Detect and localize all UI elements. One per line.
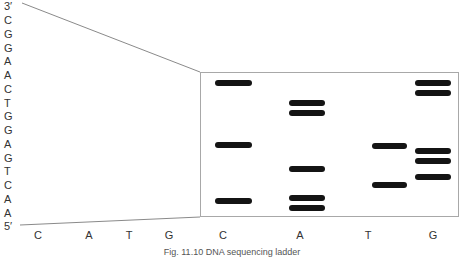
gel-band-c (215, 142, 252, 148)
gel-band-g (415, 174, 451, 180)
bottom-connector-line (20, 217, 200, 225)
lane-label-left: A (79, 229, 99, 241)
sequence-base: G (4, 28, 16, 40)
sequence-base: C (4, 179, 16, 191)
gel-band-g (415, 158, 451, 164)
gel-band-a (289, 110, 325, 116)
sequence-base: C (4, 14, 16, 26)
gel-lane-label-c: C (213, 229, 233, 241)
lane-label-left: T (119, 229, 139, 241)
gel-band-c (215, 80, 252, 86)
gel-band-g (415, 148, 451, 154)
sequence-base: A (4, 138, 16, 150)
five-prime-label: 5′ (4, 220, 16, 232)
gel-band-a (289, 205, 325, 211)
gel-band-t (372, 182, 407, 188)
gel-lane-label-t: T (358, 229, 378, 241)
sequence-base: G (4, 110, 16, 122)
sequence-base: A (4, 207, 16, 219)
gel-lane-label-a: A (290, 229, 310, 241)
sequence-base: A (4, 55, 16, 67)
sequence-base: C (4, 83, 16, 95)
sequence-base: A (4, 193, 16, 205)
gel-band-a (289, 195, 325, 201)
gel-band-c (215, 198, 252, 204)
sequence-base: G (4, 152, 16, 164)
figure-caption: Fig. 11.10 DNA sequencing ladder (0, 246, 464, 258)
sequence-base: T (4, 97, 16, 109)
gel-band-g (415, 90, 451, 96)
sequence-base: T (4, 165, 16, 177)
sequence-base: A (4, 69, 16, 81)
lane-label-left: C (28, 229, 48, 241)
lane-label-left: G (159, 229, 179, 241)
three-prime-label: 3′ (4, 0, 16, 12)
gel-band-a (289, 166, 325, 172)
sequence-base: G (4, 124, 16, 136)
gel-lane-label-g: G (423, 229, 443, 241)
gel-band-g (415, 80, 451, 86)
gel-band-a (289, 100, 325, 106)
top-connector-line (22, 3, 200, 72)
sequence-base: G (4, 42, 16, 54)
gel-band-t (372, 143, 407, 149)
